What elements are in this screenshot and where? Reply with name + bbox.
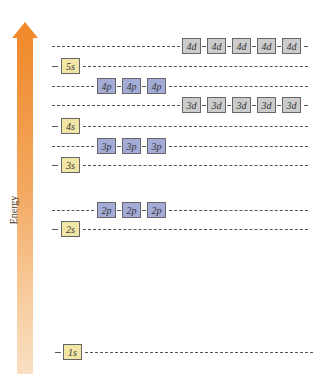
- level-line: [202, 46, 206, 47]
- level-line: [169, 86, 308, 87]
- level-line: [277, 46, 281, 47]
- level-line: [202, 105, 206, 106]
- orbital-4p: 4p: [147, 78, 166, 94]
- orbital-4d: 4d: [282, 38, 301, 54]
- level-line: [252, 46, 256, 47]
- level-line: [52, 146, 94, 147]
- orbital-3d: 3d: [182, 97, 201, 113]
- orbital-3p: 3p: [147, 138, 166, 154]
- level-line: [52, 210, 94, 211]
- level-line: [304, 105, 308, 106]
- level-line: [52, 126, 58, 127]
- level-line: [304, 46, 308, 47]
- level-line: [117, 210, 121, 211]
- level-line: [52, 46, 180, 47]
- level-line: [83, 126, 308, 127]
- level-line: [52, 66, 58, 67]
- level-line: [55, 352, 61, 353]
- orbital-3d: 3d: [232, 97, 251, 113]
- orbital-3d: 3d: [207, 97, 226, 113]
- level-line: [83, 66, 308, 67]
- orbital-4d: 4d: [232, 38, 251, 54]
- level-line: [52, 229, 58, 230]
- orbital-3s: 3s: [61, 157, 80, 173]
- level-line: [142, 210, 146, 211]
- level-line: [142, 146, 146, 147]
- level-4p: 4p 4p 4p: [0, 78, 331, 96]
- orbital-4s: 4s: [61, 118, 80, 134]
- level-line: [117, 146, 121, 147]
- orbital-4d: 4d: [182, 38, 201, 54]
- level-line: [52, 105, 180, 106]
- level-line: [117, 86, 121, 87]
- level-3p: 3p 3p 3p: [0, 138, 331, 156]
- orbital-3d: 3d: [257, 97, 276, 113]
- level-3s: 3s: [0, 157, 331, 175]
- level-line: [169, 210, 308, 211]
- level-4d: 4d 4d 4d 4d 4d: [0, 38, 331, 56]
- level-line: [227, 46, 231, 47]
- level-line: [83, 165, 308, 166]
- orbital-4p: 4p: [97, 78, 116, 94]
- level-line: [252, 105, 256, 106]
- orbital-5s: 5s: [61, 58, 80, 74]
- level-line: [52, 86, 94, 87]
- level-2p: 2p 2p 2p: [0, 202, 331, 220]
- orbital-4d: 4d: [257, 38, 276, 54]
- orbital-1s: 1s: [63, 344, 82, 360]
- orbital-2p: 2p: [122, 202, 141, 218]
- level-line: [83, 229, 308, 230]
- arrow-head-icon: [12, 22, 38, 38]
- orbital-3p: 3p: [122, 138, 141, 154]
- orbital-2p: 2p: [97, 202, 116, 218]
- orbital-4d: 4d: [207, 38, 226, 54]
- level-4s: 4s: [0, 118, 331, 136]
- orbital-2s: 2s: [61, 221, 80, 237]
- level-line: [227, 105, 231, 106]
- orbital-3p: 3p: [97, 138, 116, 154]
- orbital-4p: 4p: [122, 78, 141, 94]
- level-line: [52, 165, 58, 166]
- level-line: [169, 146, 308, 147]
- level-3d: 3d 3d 3d 3d 3d: [0, 97, 331, 115]
- level-1s: 1s: [0, 344, 331, 362]
- level-2s: 2s: [0, 221, 331, 239]
- orbital-2p: 2p: [147, 202, 166, 218]
- level-line: [277, 105, 281, 106]
- level-line: [142, 86, 146, 87]
- level-5s: 5s: [0, 58, 331, 76]
- orbital-3d: 3d: [282, 97, 301, 113]
- level-line: [85, 352, 313, 353]
